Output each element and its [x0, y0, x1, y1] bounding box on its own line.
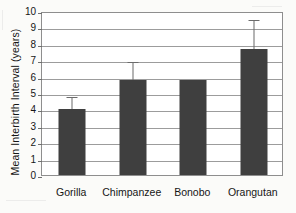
- bar-group: [103, 13, 164, 175]
- y-axis-tick-label: 5: [18, 89, 36, 99]
- x-axis-tick-label: Chimpanzee: [102, 186, 161, 198]
- error-bar: [253, 20, 254, 51]
- bar-group: [163, 13, 224, 175]
- y-axis-tick-label: 9: [18, 23, 36, 33]
- bar: [119, 80, 146, 175]
- y-axis-tick-label: 8: [18, 40, 36, 50]
- bars-layer: [42, 13, 282, 175]
- x-axis-tick-label: Gorilla: [56, 186, 86, 198]
- bar: [59, 109, 86, 175]
- scan-artifact: [2, 10, 3, 30]
- y-axis-tick-label: 3: [18, 122, 36, 132]
- y-axis-tick-label: 0: [18, 171, 36, 181]
- y-axis-tick-label: 4: [18, 105, 36, 115]
- bar-group: [224, 13, 285, 175]
- x-axis-tick-label: Orangutan: [228, 186, 278, 198]
- bar-chart: Mean Interbirth Interval (years) 0123456…: [0, 0, 296, 213]
- bar-group: [42, 13, 103, 175]
- y-axis-tick-label: 6: [18, 73, 36, 83]
- y-axis-tick-label: 7: [18, 56, 36, 66]
- bar: [180, 80, 207, 175]
- y-axis-tick-label: 1: [18, 155, 36, 165]
- y-axis-tick: [38, 177, 42, 178]
- bar: [240, 49, 267, 175]
- y-axis-tick-label: 10: [18, 7, 36, 17]
- y-axis-tick-labels: 012345678910: [18, 12, 36, 176]
- scan-artifact: [252, 6, 282, 7]
- scan-artifact: [6, 200, 46, 201]
- y-axis-tick-label: 2: [18, 138, 36, 148]
- plot-area: [41, 12, 283, 176]
- error-bar-cap: [127, 62, 138, 63]
- error-bar-cap: [248, 20, 259, 21]
- x-axis-tick-label: Bonobo: [174, 186, 210, 198]
- x-axis-tick-labels: GorillaChimpanzeeBonoboOrangutan: [41, 186, 283, 202]
- error-bar-cap: [67, 97, 78, 98]
